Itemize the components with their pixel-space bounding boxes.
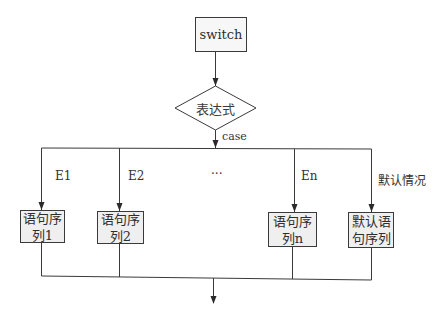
box1-line1: 语句序: [23, 210, 62, 227]
default-statement-box: 默认语 句序列: [348, 212, 394, 248]
condition-e1: E1: [55, 169, 71, 183]
switch-node: switch: [195, 17, 247, 52]
statement-box-n: 语句序 列n: [268, 212, 317, 247]
box2-line1: 语句序: [101, 211, 140, 228]
switch-label: switch: [200, 26, 243, 43]
ellipsis: ···: [211, 167, 222, 181]
decision-label: 表达式: [193, 99, 238, 118]
condition-default: 默认情况: [378, 171, 426, 188]
default-line1: 默认语: [352, 213, 391, 230]
case-edge-label: case: [222, 130, 247, 143]
statement-box-2: 语句序 列2: [97, 211, 144, 244]
box2-line2: 列2: [101, 228, 140, 245]
condition-e2: E2: [128, 169, 144, 183]
box1-line2: 列1: [23, 227, 62, 244]
boxn-line1: 语句序: [273, 213, 312, 230]
condition-en: En: [301, 169, 318, 183]
default-line2: 句序列: [352, 230, 391, 247]
boxn-line2: 列n: [273, 230, 312, 247]
statement-box-1: 语句序 列1: [20, 210, 65, 243]
switch-flowchart: switch 表达式 case E1 E2 ··· En 默认情况 语句序 列1…: [0, 0, 441, 323]
